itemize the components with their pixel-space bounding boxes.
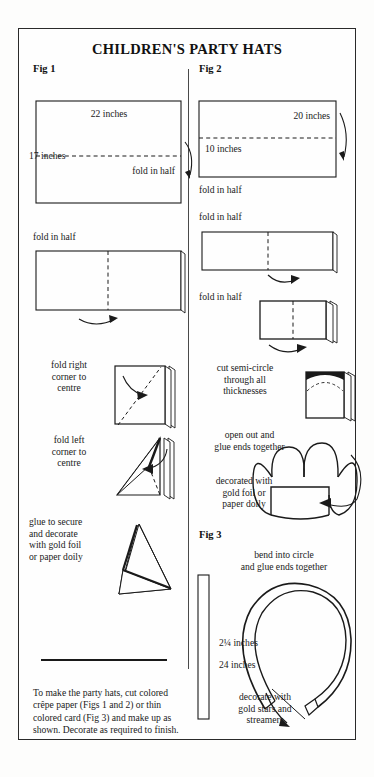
fig3-width-dim: 2¼ inches <box>219 637 303 649</box>
fig3-strip-diagram <box>19 29 357 741</box>
instruction-sheet: CHILDREN'S PARTY HATS Fig 1 22 inches 17… <box>18 28 356 740</box>
fig3-length-dim: 24 inches <box>219 659 303 671</box>
fig3-bottom-caption: decorate with gold stars and streamers <box>215 691 315 726</box>
page-canvas: CHILDREN'S PARTY HATS Fig 1 22 inches 17… <box>0 0 374 777</box>
